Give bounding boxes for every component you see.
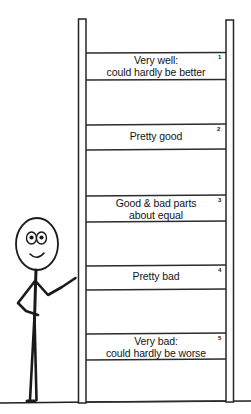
- rung-number-1: 1: [218, 54, 221, 60]
- rung-number-2: 2: [217, 126, 220, 132]
- rung-number-4: 4: [218, 267, 221, 273]
- ladder-drawing: [0, 0, 251, 414]
- rung-number-5: 5: [218, 335, 221, 341]
- ladder-rail-right: [226, 20, 234, 402]
- ladder-rail-left: [79, 19, 87, 403]
- rung-number-3: 3: [218, 197, 221, 203]
- torso: [35, 270, 37, 320]
- ladder-rungs: [86, 53, 226, 403]
- oval-head: [16, 218, 58, 270]
- ladder-scale-figure: Very well: could hardly be better 1 Pret…: [0, 0, 251, 414]
- leg-right: [35, 316, 37, 400]
- arm-reaching-to-ladder: [36, 278, 76, 295]
- stick-figure-person: [16, 218, 76, 401]
